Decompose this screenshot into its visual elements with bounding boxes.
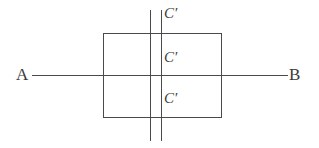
capacitor-middle-label-prime: ′ (174, 49, 177, 65)
capacitor-middle-label-symbol: C (164, 49, 174, 65)
capacitor-top-label-symbol: C (164, 5, 174, 21)
capacitor-bottom-label: C′ (164, 91, 177, 106)
capacitor-middle-label: C′ (164, 50, 177, 65)
capacitor-top-label-prime: ′ (174, 5, 177, 21)
circuit-schematic-canvas (0, 0, 319, 148)
capacitor-bottom-label-symbol: C (164, 90, 174, 106)
capacitor-top-label: C′ (164, 6, 177, 21)
terminal-label-b: B (289, 66, 300, 83)
terminal-label-a: A (16, 66, 28, 83)
capacitor-bottom-label-prime: ′ (174, 90, 177, 106)
circuit-diagram: A B C′ C′ C′ (0, 0, 319, 148)
